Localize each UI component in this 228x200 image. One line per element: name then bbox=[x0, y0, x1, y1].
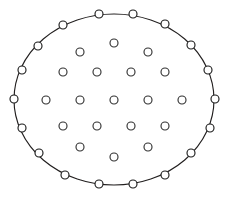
interior-node-i2 bbox=[76, 48, 84, 56]
interior-node-i12 bbox=[178, 96, 186, 104]
interior-node-i5 bbox=[93, 68, 101, 76]
interior-node-i6 bbox=[127, 68, 135, 76]
boundary-node-b11 bbox=[95, 180, 103, 188]
boundary-node-b10 bbox=[129, 180, 137, 188]
interior-node-i10 bbox=[110, 96, 118, 104]
interior-node-group bbox=[42, 39, 186, 161]
boundary-node-b16 bbox=[18, 66, 26, 74]
interior-node-i1 bbox=[110, 39, 118, 47]
boundary-node-b8 bbox=[187, 149, 195, 157]
boundary-node-b9 bbox=[161, 171, 169, 179]
boundary-node-b13 bbox=[35, 149, 43, 157]
interior-node-i13 bbox=[59, 122, 67, 130]
interior-node-i7 bbox=[161, 68, 169, 76]
interior-node-i11 bbox=[144, 96, 152, 104]
interior-node-i15 bbox=[127, 122, 135, 130]
boundary-node-b18 bbox=[59, 21, 67, 29]
interior-node-i8 bbox=[42, 96, 50, 104]
boundary-node-b6 bbox=[211, 95, 219, 103]
interior-node-i17 bbox=[76, 143, 84, 151]
boundary-node-b3 bbox=[161, 20, 169, 28]
node-distribution-diagram bbox=[0, 0, 228, 200]
boundary-node-b5 bbox=[204, 66, 212, 74]
interior-node-i3 bbox=[144, 48, 152, 56]
boundary-node-b17 bbox=[34, 42, 42, 50]
boundary-node-b14 bbox=[18, 124, 26, 132]
boundary-node-b2 bbox=[129, 10, 137, 18]
figure-canvas bbox=[0, 0, 228, 200]
boundary-node-b1 bbox=[95, 10, 103, 18]
interior-node-i14 bbox=[93, 122, 101, 130]
interior-node-i16 bbox=[161, 122, 169, 130]
interior-node-i18 bbox=[144, 143, 152, 151]
interior-node-i19 bbox=[110, 153, 118, 161]
boundary-node-b7 bbox=[206, 124, 214, 132]
interior-node-i4 bbox=[59, 68, 67, 76]
boundary-node-b15 bbox=[10, 95, 18, 103]
boundary-node-b12 bbox=[61, 171, 69, 179]
interior-node-i9 bbox=[76, 96, 84, 104]
boundary-node-b4 bbox=[187, 41, 195, 49]
